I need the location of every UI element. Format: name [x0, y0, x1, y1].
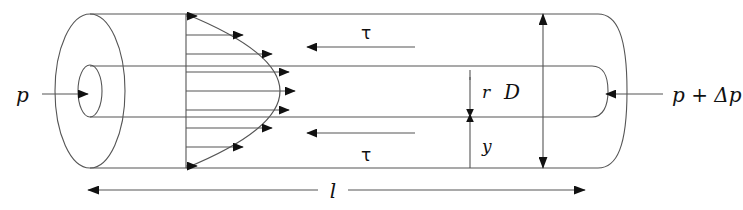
diagram-canvas: τ τ p p + Δp D r y l [0, 0, 743, 210]
inlet-pressure-label: p [16, 83, 29, 107]
core-outlet-cap [592, 66, 608, 117]
velocity-profile [186, 14, 295, 168]
y-label: y [481, 136, 492, 156]
r-label: r [482, 82, 491, 102]
pipe-outlet-cap [598, 14, 627, 168]
pipe-outer-body [55, 14, 627, 168]
tau-top-label: τ [361, 23, 371, 43]
core-inlet-ellipse [78, 65, 102, 117]
length-label: l [330, 179, 336, 203]
pipe-inner-core [78, 65, 608, 117]
tau-bottom-label: τ [361, 145, 371, 165]
velocity-vectors [186, 16, 295, 166]
pipe-flow-diagram: τ τ p p + Δp D r y l [0, 0, 743, 210]
diameter-label: D [503, 80, 520, 104]
outlet-pressure-label: p + Δp [672, 83, 742, 107]
pipe-inlet-ellipse [55, 14, 125, 168]
shear-stress-group [307, 47, 415, 133]
